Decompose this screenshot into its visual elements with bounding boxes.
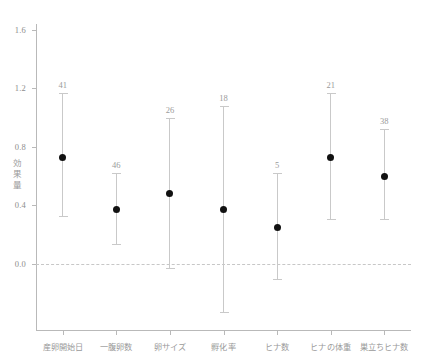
- sample-size-label: 41: [59, 80, 68, 90]
- ci-upper-cap: [112, 173, 121, 174]
- y-axis-tick: 1.2: [32, 88, 37, 89]
- sample-size-label: 26: [166, 105, 175, 115]
- y-axis-tick-label: 0.0: [15, 259, 26, 269]
- data-point-marker: [113, 206, 120, 213]
- y-axis-tick-label: 1.6: [15, 25, 26, 35]
- y-axis-tick-label: 1.2: [15, 83, 26, 93]
- y-axis-tick: 0.4: [32, 205, 37, 206]
- ci-lower-cap: [112, 244, 121, 245]
- sample-size-label: 38: [380, 116, 389, 126]
- data-point-marker: [166, 190, 173, 197]
- sample-size-label: 21: [326, 80, 335, 90]
- ci-lower-cap: [380, 219, 389, 220]
- x-axis-tick-label: 産卵開始日: [43, 340, 84, 352]
- ci-lower-cap: [327, 219, 336, 220]
- y-axis-tick: 0.8: [32, 147, 37, 148]
- y-axis-tick-label: 0.4: [15, 200, 26, 210]
- data-point-marker: [381, 173, 388, 180]
- y-axis-tick: 1.6: [32, 30, 37, 31]
- y-axis-title-char: 効: [11, 158, 23, 169]
- ci-upper-cap: [166, 118, 175, 119]
- x-axis-tick: [384, 330, 385, 335]
- y-axis-title: 効 果 量: [11, 158, 23, 191]
- ci-lower-cap: [166, 268, 175, 269]
- x-axis-tick: [277, 330, 278, 335]
- ci-upper-cap: [273, 173, 282, 174]
- data-point-marker: [220, 206, 227, 213]
- sample-size-label: 46: [112, 160, 121, 170]
- x-axis-tick-label: 卵サイズ: [154, 340, 186, 352]
- x-axis-tick: [63, 330, 64, 335]
- x-axis-tick-label: ヒナ数: [265, 340, 289, 352]
- y-axis-tick-label: 0.8: [15, 142, 26, 152]
- x-axis-tick: [170, 330, 171, 335]
- x-axis-tick-label: ヒナの体重: [310, 340, 351, 352]
- ci-lower-cap: [59, 216, 68, 217]
- ci-upper-cap: [220, 106, 229, 107]
- data-point-marker: [274, 224, 281, 231]
- sample-size-label: 18: [219, 93, 228, 103]
- x-axis-tick: [331, 330, 332, 335]
- y-axis-line: [36, 24, 37, 330]
- effect-size-chart: 効 果 量 0.00.40.81.21.6 産卵開始日一腹卵数卵サイズ孵化率ヒナ…: [0, 0, 421, 361]
- plot-area: 0.00.40.81.21.6 産卵開始日一腹卵数卵サイズ孵化率ヒナ数ヒナの体重…: [36, 18, 411, 330]
- x-axis-tick: [224, 330, 225, 335]
- y-axis-title-char: 量: [11, 180, 23, 191]
- data-point-marker: [59, 154, 66, 161]
- ci-upper-cap: [59, 93, 68, 94]
- x-axis-tick-label: 孵化率: [211, 340, 235, 352]
- ci-upper-cap: [380, 129, 389, 130]
- ci-upper-cap: [327, 93, 336, 94]
- x-axis-tick: [116, 330, 117, 335]
- x-axis-tick-label: 巣立ちヒナ数: [360, 340, 409, 352]
- ci-lower-cap: [273, 279, 282, 280]
- y-axis-title-char: 果: [11, 169, 23, 180]
- ci-lower-cap: [220, 312, 229, 313]
- x-axis-tick-label: 一腹卵数: [100, 340, 132, 352]
- sample-size-label: 5: [275, 160, 279, 170]
- data-point-marker: [327, 154, 334, 161]
